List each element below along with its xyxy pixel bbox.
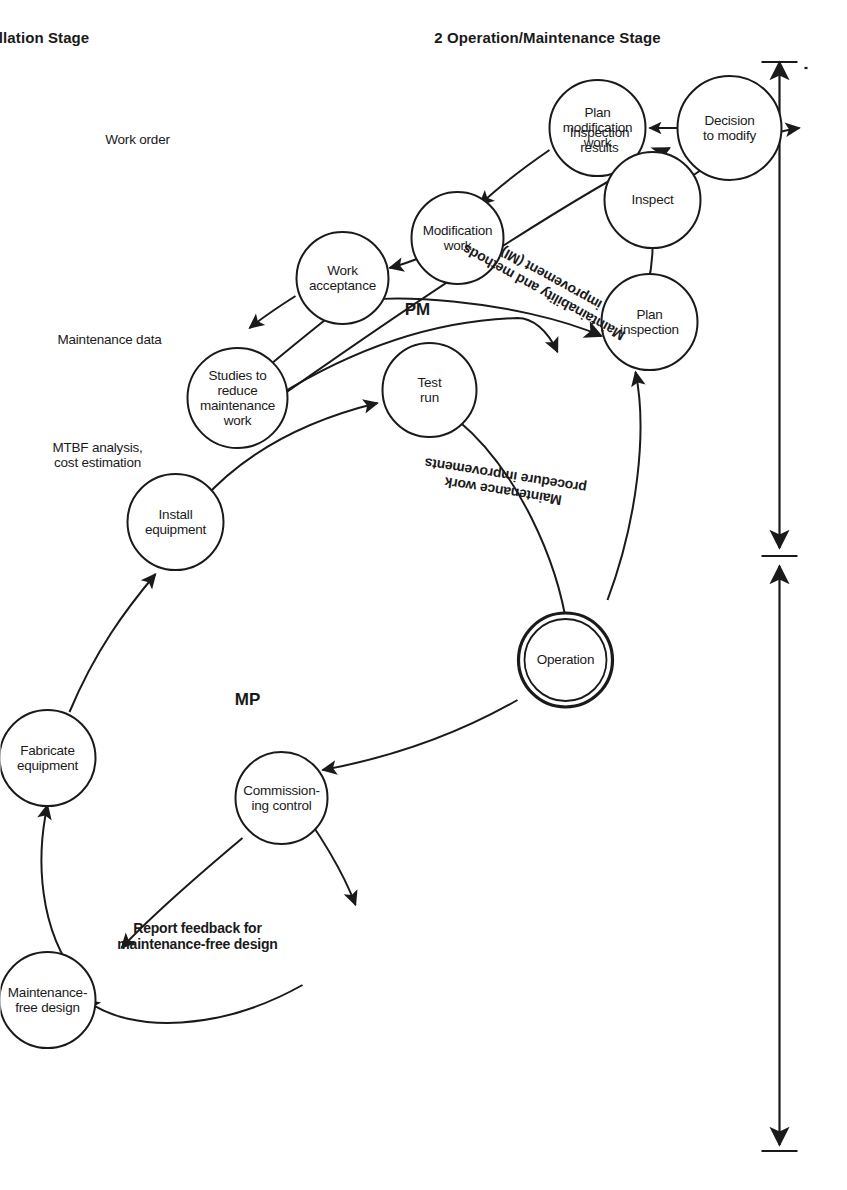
diagram-vector-layer <box>0 0 847 1190</box>
node-test-run <box>382 343 476 437</box>
node-studies-to-reduce-maintenance-work <box>187 348 287 448</box>
diagram-canvas: 2 Operation/Maintenance Stage 1 Design/I… <box>0 0 847 1190</box>
stage-axis-group <box>761 60 807 1151</box>
node-fabricate-equipment <box>0 710 95 806</box>
node-maintenance-free-design <box>0 952 95 1048</box>
node-modification-work <box>411 192 503 284</box>
node-install-equipment <box>127 474 223 570</box>
diagram-page: 2 Operation/Maintenance Stage 1 Design/I… <box>0 0 847 1190</box>
nodes-group <box>0 76 781 1048</box>
node-plan-inspection <box>601 274 697 370</box>
node-inspect <box>604 152 700 248</box>
node-commissioning-control <box>235 752 327 844</box>
node-work-acceptance <box>296 232 388 324</box>
node-operation-inner <box>524 619 606 701</box>
node-decision-to-modify <box>677 76 781 180</box>
